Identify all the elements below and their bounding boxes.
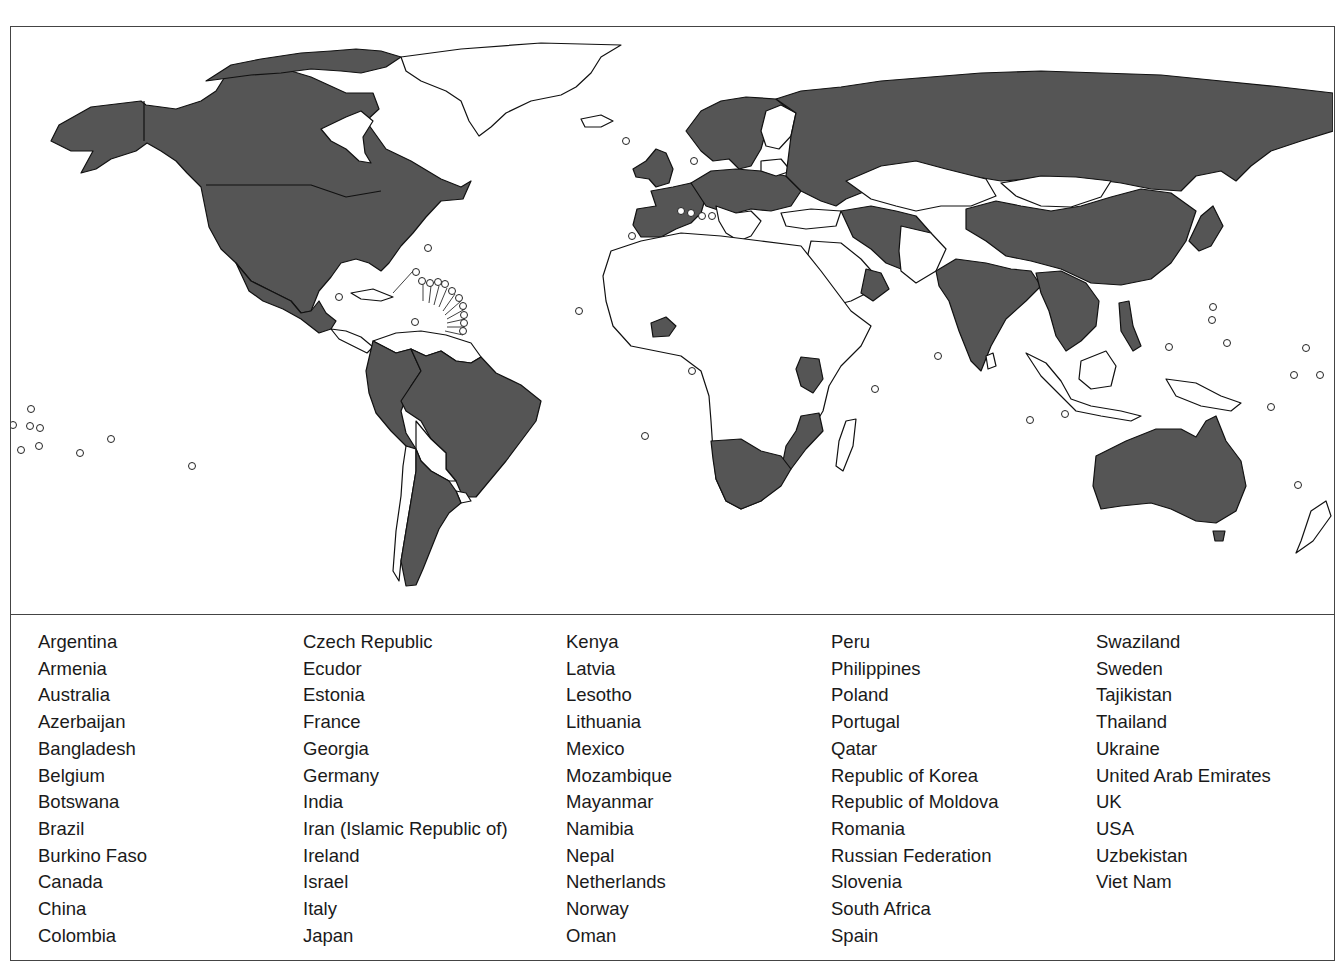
legend-item: Viet Nam bbox=[1096, 869, 1271, 896]
madagascar bbox=[836, 419, 856, 471]
legend-item: Nepal bbox=[566, 843, 672, 870]
turkey bbox=[781, 209, 841, 229]
tasmania bbox=[1213, 531, 1225, 541]
legend-item: Israel bbox=[303, 869, 508, 896]
legend-item: Lesotho bbox=[566, 682, 672, 709]
legend-item: Portugal bbox=[831, 709, 999, 736]
country-philippines bbox=[1119, 301, 1141, 351]
country-legend: Argentina Armenia Australia Azerbaijan B… bbox=[38, 629, 1328, 959]
country-central-europe bbox=[691, 169, 801, 213]
legend-column-1: Argentina Armenia Australia Azerbaijan B… bbox=[38, 629, 147, 949]
world-map-svg bbox=[11, 27, 1333, 614]
legend-item: Bangladesh bbox=[38, 736, 147, 763]
legend-item: Poland bbox=[831, 682, 999, 709]
new-zealand bbox=[1296, 501, 1331, 553]
legend-item: Australia bbox=[38, 682, 147, 709]
legend-item: Armenia bbox=[38, 656, 147, 683]
legend-item: Mozambique bbox=[566, 763, 672, 790]
legend-item: Czech Republic bbox=[303, 629, 508, 656]
legend-item: Kenya bbox=[566, 629, 672, 656]
country-france-spain-portugal bbox=[633, 183, 706, 237]
legend-item: Ukraine bbox=[1096, 736, 1271, 763]
legend-item: Republic of Korea bbox=[831, 763, 999, 790]
legend-item: Japan bbox=[303, 923, 508, 950]
legend-item: United Arab Emirates bbox=[1096, 763, 1271, 790]
legend-item: Thailand bbox=[1096, 709, 1271, 736]
legend-divider bbox=[11, 614, 1334, 615]
legend-item: Namibia bbox=[566, 816, 672, 843]
legend-item: Brazil bbox=[38, 816, 147, 843]
legend-item: Latvia bbox=[566, 656, 672, 683]
legend-column-5: Swaziland Sweden Tajikistan Thailand Ukr… bbox=[1096, 629, 1271, 896]
country-oman-uae bbox=[861, 269, 889, 301]
legend-item: South Africa bbox=[831, 896, 999, 923]
legend-item: Botswana bbox=[38, 789, 147, 816]
country-india-bangladesh-nepal bbox=[936, 259, 1041, 371]
legend-item: Netherlands bbox=[566, 869, 672, 896]
legend-item: Mayanmar bbox=[566, 789, 672, 816]
legend-item: Lithuania bbox=[566, 709, 672, 736]
legend-item: Germany bbox=[303, 763, 508, 790]
legend-item: France bbox=[303, 709, 508, 736]
legend-item: India bbox=[303, 789, 508, 816]
legend-item: Swaziland bbox=[1096, 629, 1271, 656]
legend-item: Georgia bbox=[303, 736, 508, 763]
legend-item: Peru bbox=[831, 629, 999, 656]
legend-column-3: Kenya Latvia Lesotho Lithuania Mexico Mo… bbox=[566, 629, 672, 949]
legend-item: Republic of Moldova bbox=[831, 789, 999, 816]
legend-item: Ireland bbox=[303, 843, 508, 870]
legend-item: Mexico bbox=[566, 736, 672, 763]
country-myanmar-thailand-vietnam bbox=[1036, 271, 1099, 351]
legend-item: Slovenia bbox=[831, 869, 999, 896]
legend-item: Italy bbox=[303, 896, 508, 923]
legend-item: Philippines bbox=[831, 656, 999, 683]
legend-item: USA bbox=[1096, 816, 1271, 843]
iceland bbox=[581, 115, 613, 127]
legend-item: Azerbaijan bbox=[38, 709, 147, 736]
figure-frame: Argentina Armenia Australia Azerbaijan B… bbox=[10, 26, 1335, 961]
country-uk-ireland bbox=[633, 149, 673, 187]
legend-item: Argentina bbox=[38, 629, 147, 656]
legend-item: UK bbox=[1096, 789, 1271, 816]
legend-item: Russian Federation bbox=[831, 843, 999, 870]
legend-item: Burkino Faso bbox=[38, 843, 147, 870]
legend-item: Qatar bbox=[831, 736, 999, 763]
legend-column-2: Czech Republic Ecudor Estonia France Geo… bbox=[303, 629, 508, 949]
legend-item: Sweden bbox=[1096, 656, 1271, 683]
country-australia bbox=[1093, 416, 1246, 523]
legend-item: Iran (Islamic Republic of) bbox=[303, 816, 508, 843]
legend-item: Canada bbox=[38, 869, 147, 896]
legend-item: Ecudor bbox=[303, 656, 508, 683]
legend-item: Norway bbox=[566, 896, 672, 923]
legend-item: Estonia bbox=[303, 682, 508, 709]
legend-item: Romania bbox=[831, 816, 999, 843]
borneo bbox=[1079, 351, 1116, 389]
new-guinea bbox=[1166, 379, 1241, 411]
central-america bbox=[331, 329, 373, 353]
legend-item: Belgium bbox=[38, 763, 147, 790]
legend-item: Colombia bbox=[38, 923, 147, 950]
legend-item: Oman bbox=[566, 923, 672, 950]
sri-lanka bbox=[986, 353, 996, 369]
legend-item: China bbox=[38, 896, 147, 923]
world-map bbox=[11, 27, 1333, 614]
legend-item: Spain bbox=[831, 923, 999, 950]
legend-column-4: Peru Philippines Poland Portugal Qatar R… bbox=[831, 629, 999, 949]
legend-item: Uzbekistan bbox=[1096, 843, 1271, 870]
legend-item: Tajikistan bbox=[1096, 682, 1271, 709]
cuba bbox=[351, 289, 393, 301]
